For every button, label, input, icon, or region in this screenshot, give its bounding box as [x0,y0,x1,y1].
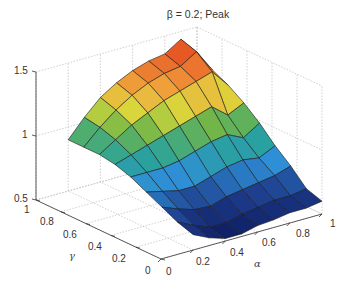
y-tick-5: 1 [24,204,30,215]
z-tick-0: 0.5 [14,193,28,204]
y-tick-2: 0.4 [88,241,102,252]
y-tick-0: 0 [145,265,151,276]
x-tick-2: 0.4 [230,247,244,258]
surface-plot [0,0,346,286]
chart-title: β = 0.2; Peak [0,8,346,20]
x-tick-1: 0.2 [196,256,210,267]
y-axis-label: γ [69,250,75,261]
z-tick-1: 1 [22,129,28,140]
y-tick-1: 0.2 [112,253,126,264]
x-axis-label: α [254,258,261,269]
x-tick-4: 0.8 [296,228,310,239]
x-tick-5: 1 [330,218,336,229]
z-tick-2: 1.5 [14,65,28,76]
x-tick-0: 0 [166,266,172,277]
y-tick-3: 0.6 [63,229,77,240]
x-tick-3: 0.6 [262,237,276,248]
surface-mesh [68,39,322,238]
y-tick-4: 0.8 [40,216,54,227]
